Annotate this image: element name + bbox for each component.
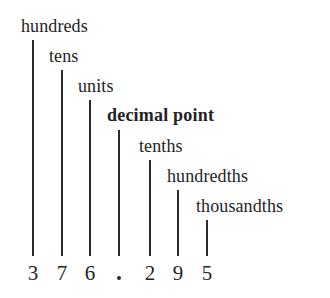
leader-hundreds — [32, 40, 34, 256]
place-value-diagram: hundredstensunitsdecimal pointtenthshund… — [0, 0, 330, 298]
digit-hundredths: 9 — [168, 263, 188, 284]
digit-hundreds: 3 — [23, 263, 43, 284]
leader-tens — [61, 70, 63, 256]
label-hundreds: hundreds — [21, 17, 88, 35]
label-tenths: tenths — [139, 137, 183, 155]
decimal-point-mark — [117, 276, 121, 280]
label-hundredths: hundredths — [167, 167, 248, 185]
label-units: units — [78, 77, 114, 95]
label-decimal-point: decimal point — [107, 106, 214, 124]
leader-hundredths — [177, 190, 179, 256]
digit-thousandths: 5 — [197, 263, 217, 284]
digit-tenths: 2 — [140, 263, 160, 284]
digit-tens: 7 — [52, 263, 72, 284]
leader-decimal-point — [118, 130, 120, 256]
leader-thousandths — [206, 220, 208, 256]
digit-units: 6 — [80, 263, 100, 284]
leader-units — [89, 100, 91, 256]
leader-tenths — [149, 160, 151, 256]
label-tens: tens — [49, 47, 78, 65]
label-thousandths: thousandths — [196, 197, 283, 215]
